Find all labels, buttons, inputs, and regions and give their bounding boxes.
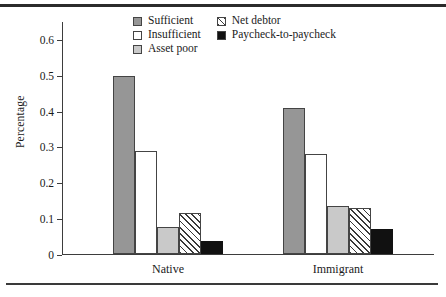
- legend-swatch-icon: [217, 31, 226, 40]
- legend-item-sufficient: Sufficient: [133, 14, 201, 28]
- plot-area: 00.10.20.30.40.50.6 NativeImmigrant: [62, 22, 434, 255]
- y-tick-mark: [57, 255, 62, 256]
- bar-native-sufficient: [113, 76, 135, 255]
- y-axis-label: Percentage: [14, 96, 26, 148]
- legend-item-insufficient: Insufficient: [133, 28, 201, 42]
- y-tick-label: 0: [48, 249, 54, 261]
- bar-immigrant-asset-poor: [327, 206, 349, 254]
- y-tick-mark: [57, 183, 62, 184]
- bar-immigrant-paycheck-to-paycheck: [371, 229, 393, 254]
- y-tick-label: 0.4: [40, 106, 54, 118]
- legend-label: Paycheck-to-paycheck: [232, 29, 336, 41]
- y-tick-mark: [57, 219, 62, 220]
- legend-item-paycheck-to-paycheck: Paycheck-to-paycheck: [217, 28, 336, 42]
- legend-swatch-icon: [133, 45, 142, 54]
- y-tick-label: 0.5: [40, 70, 54, 82]
- bar-native-net-debtor: [179, 213, 201, 254]
- y-tick-label: 0.2: [40, 177, 54, 189]
- bar-immigrant-insufficient: [305, 154, 327, 254]
- y-axis-line: [62, 22, 63, 255]
- x-group-label-native: Native: [152, 262, 184, 277]
- bar-immigrant-net-debtor: [349, 208, 371, 254]
- y-tick-mark: [57, 40, 62, 41]
- legend-swatch-icon: [133, 17, 142, 26]
- legend-label: Asset poor: [148, 43, 198, 55]
- bar-native-paycheck-to-paycheck: [201, 241, 223, 254]
- legend-swatch-icon: [133, 31, 142, 40]
- y-tick-label: 0.6: [40, 34, 54, 46]
- y-tick-label: 0.3: [40, 141, 54, 153]
- x-group-label-immigrant: Immigrant: [313, 262, 364, 277]
- legend-item-asset-poor: Asset poor: [133, 42, 201, 56]
- bottom-rule: [6, 283, 438, 285]
- y-tick-mark: [57, 147, 62, 148]
- bar-native-insufficient: [135, 151, 157, 254]
- legend-swatch-icon: [217, 17, 226, 26]
- legend-item-net-debtor: Net debtor: [217, 14, 336, 28]
- legend-label: Insufficient: [148, 29, 201, 41]
- chart-legend: SufficientInsufficientAsset poorNet debt…: [133, 14, 336, 56]
- y-tick-label: 0.1: [40, 213, 54, 225]
- x-axis-line: [62, 254, 434, 255]
- y-tick-mark: [57, 112, 62, 113]
- legend-label: Net debtor: [232, 15, 281, 27]
- bar-native-asset-poor: [157, 227, 179, 254]
- top-rule: [0, 4, 446, 7]
- y-tick-mark: [57, 76, 62, 77]
- bar-immigrant-sufficient: [283, 108, 305, 254]
- figure-container: Percentage 00.10.20.30.40.50.6 NativeImm…: [0, 0, 446, 297]
- legend-label: Sufficient: [148, 15, 193, 27]
